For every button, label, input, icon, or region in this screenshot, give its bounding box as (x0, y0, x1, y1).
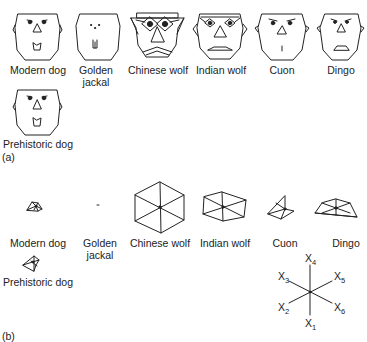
label-a-indian-wolf: Indian wolf (192, 64, 250, 76)
axis-label-x2: X2 (278, 302, 289, 317)
label-b-modern-dog: Modern dog (6, 237, 70, 249)
face-modern-dog (13, 14, 62, 60)
label-a-golden-jackal: Golden jackal (74, 64, 118, 88)
star-modern-dog (27, 202, 42, 211)
diagram-canvas (0, 0, 367, 342)
label-b-prehistoric-dog: Prehistoric dog (0, 276, 76, 288)
label-b-chinese-wolf: Chinese wolf (126, 237, 194, 249)
label-a-dingo: Dingo (321, 64, 361, 76)
axis-label-x4: X4 (305, 253, 316, 268)
label-a-prehistoric-dog: Prehistoric dog (0, 138, 76, 150)
panel-a-label: (a) (2, 151, 15, 163)
panel-b-label: (b) (2, 330, 15, 342)
face-indian-wolf (193, 14, 247, 59)
star-indian-wolf (203, 192, 246, 221)
label-b-golden-jackal-line2: jackal (78, 249, 122, 261)
label-a-golden-jackal-line1: Golden (74, 64, 118, 76)
face-chinese-wolf (131, 13, 184, 57)
face-dingo (317, 14, 364, 60)
star-prehistoric-dog (23, 256, 39, 271)
label-b-indian-wolf: Indian wolf (196, 237, 254, 249)
label-a-modern-dog: Modern dog (2, 64, 74, 76)
face-golden-jackal (76, 14, 120, 60)
label-a-chinese-wolf: Chinese wolf (124, 64, 192, 76)
label-b-golden-jackal: Golden jackal (78, 237, 122, 261)
label-b-cuon: Cuon (265, 237, 305, 249)
star-dingo (315, 199, 357, 217)
axis-label-x1: X1 (305, 318, 316, 333)
star-chinese-wolf (135, 182, 184, 233)
label-a-cuon: Cuon (262, 64, 302, 76)
label-a-golden-jackal-line2: jackal (74, 76, 118, 88)
axis-label-x6: X6 (334, 302, 345, 317)
axis-label-x3: X3 (278, 271, 289, 286)
label-b-golden-jackal-line1: Golden (78, 237, 122, 249)
axis-label-x5: X5 (334, 271, 345, 286)
face-prehistoric-dog (13, 90, 62, 135)
face-cuon (255, 14, 309, 60)
star-axis-key (289, 265, 332, 315)
label-b-dingo: Dingo (325, 237, 367, 249)
star-cuon (268, 196, 294, 219)
